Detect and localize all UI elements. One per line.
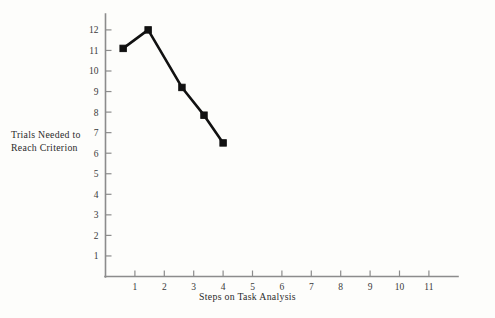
x-tick-label: 8 (338, 282, 343, 292)
data-point-marker (120, 45, 126, 51)
chart-screenshot: 123456789101112 1234567891011 Trials Nee… (0, 0, 495, 318)
y-axis-title-line-2: Reach Criterion (11, 141, 93, 154)
y-tick-label: 4 (94, 190, 99, 200)
y-tick-label: 3 (94, 210, 99, 220)
y-tick-label: 9 (94, 87, 99, 97)
data-line-series-0 (123, 30, 223, 143)
x-tick-label: 6 (280, 282, 285, 292)
x-tick-label: 11 (424, 282, 433, 292)
y-tick-label: 2 (94, 231, 99, 241)
y-axis-title-line-1: Trials Needed to (11, 128, 93, 141)
y-tick-label: 11 (89, 46, 98, 56)
y-axis-title: Trials Needed to Reach Criterion (11, 128, 93, 154)
data-point-marker (201, 112, 207, 118)
data-point-marker (145, 27, 151, 33)
x-tick-label: 2 (162, 282, 167, 292)
y-tick-label: 10 (89, 66, 99, 76)
x-tick-label: 5 (250, 282, 255, 292)
x-tick-label: 7 (309, 282, 314, 292)
x-axis-ticks: 1234567891011 (133, 271, 434, 292)
y-tick-label: 6 (94, 149, 99, 159)
y-tick-label: 5 (94, 169, 99, 179)
x-tick-label: 1 (133, 282, 138, 292)
data-markers-series-0 (120, 27, 226, 146)
plot-area: 123456789101112 1234567891011 (0, 0, 495, 318)
data-point-marker (179, 84, 185, 90)
x-tick-label: 4 (221, 282, 226, 292)
x-axis-title: Steps on Task Analysis (0, 291, 495, 302)
x-tick-label: 10 (395, 282, 405, 292)
x-tick-label: 9 (368, 282, 373, 292)
y-tick-label: 8 (94, 108, 99, 118)
y-tick-label: 7 (94, 128, 99, 138)
axes (105, 14, 458, 277)
line-chart-figure: 123456789101112 1234567891011 Trials Nee… (0, 0, 495, 318)
y-tick-label: 12 (89, 25, 99, 35)
x-tick-label: 3 (191, 282, 196, 292)
data-point-marker (220, 140, 226, 146)
y-tick-label: 1 (94, 251, 99, 261)
